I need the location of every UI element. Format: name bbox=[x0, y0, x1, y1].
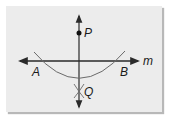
label-a: A bbox=[31, 65, 40, 79]
label-b: B bbox=[120, 65, 128, 79]
label-m: m bbox=[143, 54, 153, 68]
label-q: Q bbox=[84, 85, 93, 99]
label-p: P bbox=[84, 26, 92, 40]
point-p bbox=[77, 31, 82, 36]
perpendicular-construction-diagram: P Q A B m bbox=[0, 0, 170, 118]
